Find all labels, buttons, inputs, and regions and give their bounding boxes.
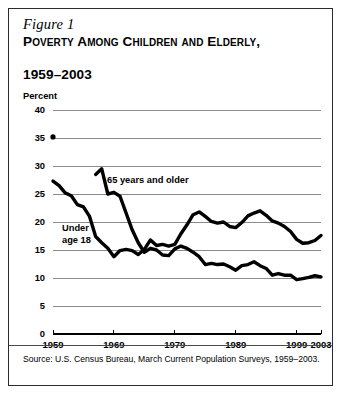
annotation-elderly: 65 years and older	[107, 175, 189, 185]
series-start-point	[50, 134, 55, 139]
y-tick-label: 35	[35, 133, 45, 143]
x-tick-label: 2003	[310, 339, 331, 349]
series-line	[53, 181, 321, 257]
poverty-line-chart: 0510152025303540 19591969197919891999200…	[9, 9, 333, 349]
gridline-group	[53, 110, 321, 306]
x-tick-label-group: 195919691979198919992003	[42, 339, 331, 349]
y-tick-label: 10	[35, 273, 45, 283]
x-axis-group	[53, 330, 321, 334]
y-tick-label-group: 0510152025303540	[35, 105, 45, 339]
x-tick-label: 1959	[42, 339, 63, 349]
source-divider	[9, 345, 333, 346]
x-tick-label: 1999	[286, 339, 307, 349]
y-tick-label: 40	[35, 105, 45, 115]
y-tick-label: 20	[35, 217, 45, 227]
x-tick-label: 1969	[103, 339, 124, 349]
y-tick-label: 30	[35, 161, 45, 171]
chart-plot-area: 0510152025303540 19591969197919891999200…	[9, 9, 333, 386]
x-tick-label: 1989	[225, 339, 246, 349]
source-note: Source: U.S. Census Bureau, March Curren…	[23, 354, 321, 365]
series-line	[96, 169, 321, 280]
y-tick-label: 0	[40, 329, 45, 339]
y-tick-label: 25	[35, 189, 45, 199]
annotation-children-line1: Under	[62, 223, 89, 233]
figure-card: Figure 1 Poverty Among Children and Elde…	[8, 8, 333, 386]
data-series-group	[50, 134, 321, 279]
annotation-children-line2: age 18	[62, 235, 91, 245]
y-tick-label: 5	[40, 301, 45, 311]
y-tick-label: 15	[35, 245, 45, 255]
x-tick-label: 1979	[164, 339, 185, 349]
